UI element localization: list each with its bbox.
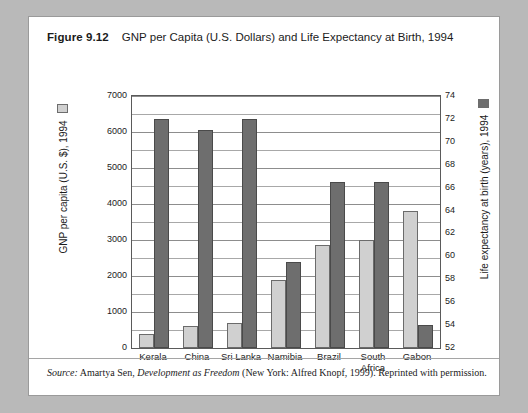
source-work: Development as Freedom: [137, 367, 239, 378]
figure-number: Figure 9.12: [47, 31, 109, 43]
bar-group: [176, 96, 220, 348]
right-tick-label: 70: [445, 136, 469, 145]
bar-gnp: [271, 280, 286, 348]
right-tick-label: 74: [445, 91, 469, 100]
bar-gnp: [227, 323, 242, 348]
bar-group: [132, 96, 176, 348]
legend-swatch-life: [478, 99, 489, 108]
left-tick-label: 5000: [93, 163, 127, 172]
bar-gnp: [359, 240, 374, 348]
right-tick-label: 60: [445, 251, 469, 260]
plot-area: [131, 95, 441, 349]
right-tick-label: 52: [445, 343, 469, 352]
bar-life-expectancy: [418, 325, 433, 348]
source-note: Source: Amartya Sen, Development as Free…: [47, 367, 487, 378]
category-label: Gabon: [395, 351, 439, 362]
category-label: Namibia: [263, 351, 307, 362]
left-axis-label-text: GNP per capita (U.S. $), 1994: [58, 120, 69, 253]
right-tick-label: 72: [445, 113, 469, 122]
source-prefix: Source:: [47, 367, 78, 378]
right-axis-title: Life expectancy at birth (years), 1994: [478, 84, 490, 294]
bar-life-expectancy: [286, 262, 301, 348]
bar-gnp: [183, 326, 198, 348]
right-tick-label: 62: [445, 228, 469, 237]
right-axis-ticks: 525456586062646668707274: [445, 95, 471, 347]
bar-life-expectancy: [198, 130, 213, 348]
left-axis-title: GNP per capita (U.S. $), 1994: [57, 79, 69, 279]
category-label: Sri Lanka: [219, 351, 263, 362]
category-label: Kerala: [131, 351, 175, 362]
right-tick-label: 54: [445, 320, 469, 329]
right-tick-label: 58: [445, 274, 469, 283]
bar-life-expectancy: [330, 182, 345, 348]
right-tick-label: 68: [445, 159, 469, 168]
left-tick-label: 1000: [93, 307, 127, 316]
bar-group: [396, 96, 440, 348]
chart-frame: GNP per capita (U.S. $), 1994 Life expec…: [39, 55, 491, 355]
legend-swatch-gnp: [57, 104, 68, 113]
left-tick-label: 7000: [93, 91, 127, 100]
bar-group: [352, 96, 396, 348]
page-title: Figure 9.12GNP per Capita (U.S. Dollars)…: [29, 31, 499, 43]
bar-life-expectancy: [242, 119, 257, 348]
source-divider: [29, 358, 499, 359]
bar-gnp: [139, 334, 154, 348]
right-axis-label-text: Life expectancy at birth (years), 1994: [479, 115, 490, 280]
figure-title-text: GNP per Capita (U.S. Dollars) and Life E…: [122, 31, 454, 43]
left-tick-label: 2000: [93, 271, 127, 280]
bar-gnp: [403, 211, 418, 348]
bar-life-expectancy: [154, 119, 169, 348]
bar-group: [308, 96, 352, 348]
source-author: Amartya Sen,: [78, 367, 137, 378]
right-tick-label: 64: [445, 205, 469, 214]
bar-group: [264, 96, 308, 348]
left-tick-label: 4000: [93, 199, 127, 208]
figure-card: Figure 9.12GNP per Capita (U.S. Dollars)…: [28, 16, 500, 396]
left-tick-label: 3000: [93, 235, 127, 244]
right-tick-label: 56: [445, 297, 469, 306]
category-label: Brazil: [307, 351, 351, 362]
right-tick-label: 66: [445, 182, 469, 191]
left-axis-ticks: 01000200030004000500060007000: [87, 95, 127, 347]
category-label: China: [175, 351, 219, 362]
bar-group: [220, 96, 264, 348]
bar-gnp: [315, 245, 330, 348]
left-tick-label: 6000: [93, 127, 127, 136]
bar-life-expectancy: [374, 182, 389, 348]
source-rest: (New York: Alfred Knopf, 1999). Reprinte…: [240, 367, 487, 378]
left-tick-label: 0: [93, 343, 127, 352]
